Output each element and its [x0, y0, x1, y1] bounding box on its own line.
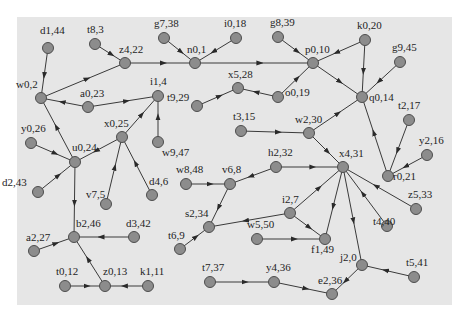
node-circle [83, 102, 94, 113]
graph-node: w9,47 [153, 137, 190, 159]
node-circle [338, 162, 349, 173]
node-circle [422, 150, 433, 161]
node-label: d3,42 [126, 217, 151, 229]
node-label: t6,9 [168, 229, 185, 241]
graph-node: n0,1 [187, 43, 206, 69]
node-label: g7,38 [154, 17, 179, 29]
graph-node: z4,22 [119, 43, 143, 69]
node-label: w2,30 [295, 113, 323, 125]
graph-node: g7,38 [154, 17, 179, 44]
graph-node: t7,37 [202, 261, 225, 288]
graph-node: h2,32 [268, 146, 293, 173]
node-circle [409, 272, 420, 283]
graph-node: w5,50 [247, 218, 275, 245]
node-label: t7,37 [202, 261, 225, 273]
node-label: x4,31 [339, 147, 364, 159]
node-label: k0,20 [357, 19, 382, 31]
node-label: h2,32 [268, 146, 293, 158]
graph-node: y2,16 [419, 134, 444, 161]
node-label: y0,26 [21, 122, 46, 134]
node-circle [304, 128, 315, 139]
graph-node: a2,27 [26, 231, 51, 257]
node-label: g8,39 [270, 16, 295, 28]
node-circle [269, 277, 280, 288]
node-circle [26, 138, 37, 149]
node-label: j2,0 [339, 251, 357, 263]
node-label: b2,46 [76, 217, 101, 229]
node-circle [175, 244, 186, 255]
graph-node: u0,24 [70, 141, 98, 168]
node-label: u0,24 [72, 141, 97, 153]
node-label: v7,5 [86, 188, 106, 200]
node-label: e2,36 [318, 274, 343, 286]
graph-node: i2,7 [282, 193, 299, 219]
node-label: z4,22 [119, 43, 143, 55]
graph-node: g8,39 [270, 16, 295, 43]
node-circle [395, 57, 406, 68]
node-label: o0,19 [285, 86, 310, 98]
node-circle [252, 234, 263, 245]
graph-node: r0,21 [383, 170, 416, 182]
graph-node: x0,25 [104, 117, 129, 143]
graph-node: t8,3 [87, 23, 104, 50]
graph-node: p0,10 [305, 43, 330, 69]
node-label: d2,43 [2, 176, 27, 188]
node-circle [236, 126, 247, 137]
node-label: x0,25 [104, 117, 129, 129]
node-label: d4,6 [149, 175, 169, 187]
node-circle [147, 190, 158, 201]
node-circle [273, 32, 284, 43]
node-circle [190, 58, 201, 69]
node-label: y2,16 [419, 134, 444, 146]
node-circle [33, 187, 44, 198]
graph-node: z0,13 [100, 265, 128, 292]
node-label: d1,44 [40, 24, 65, 36]
node-circle [383, 171, 394, 182]
node-circle [273, 92, 284, 103]
node-circle [29, 246, 40, 257]
node-label: f1,49 [311, 243, 334, 255]
graph-node: t5,41 [406, 256, 428, 283]
graph-node: v6,8 [222, 163, 242, 190]
node-label: a2,27 [26, 231, 51, 243]
node-circle [143, 281, 154, 292]
node-circle [117, 132, 128, 143]
node-label: i2,7 [282, 193, 299, 205]
node-label: t3,15 [233, 110, 256, 122]
graph-node: t0,12 [56, 265, 78, 292]
graph-node: t2,17 [398, 99, 421, 126]
node-circle [233, 83, 244, 94]
node-circle [120, 58, 131, 69]
node-label: w8,48 [176, 163, 204, 175]
node-circle [36, 93, 47, 104]
graph-node: o0,19 [273, 86, 311, 103]
graph-node: i1,4 [150, 75, 167, 102]
graph-node: g9,45 [392, 41, 417, 68]
graph-node: d3,42 [126, 217, 151, 243]
graph-node: d2,43 [2, 176, 44, 198]
graph-node: w8,48 [176, 163, 204, 190]
node-label: w0,2 [16, 78, 38, 90]
directed-graph: d1,44t8,3z4,22g7,38i0,18n0,1g8,39p0,10k0… [0, 0, 464, 318]
graph-node: x5,28 [228, 68, 253, 94]
node-circle [69, 232, 80, 243]
node-circle [327, 289, 338, 300]
node-circle [231, 33, 242, 44]
node-label: z0,13 [103, 265, 128, 277]
node-label: i1,4 [150, 75, 167, 87]
node-label: r0,21 [393, 170, 416, 182]
graph-node: y0,26 [21, 122, 46, 149]
graph-node: f1,49 [311, 234, 334, 256]
node-label: q0,14 [369, 91, 394, 103]
node-label: v6,8 [222, 163, 242, 175]
node-circle [181, 179, 192, 190]
node-circle [271, 162, 282, 173]
node-circle [129, 232, 140, 243]
graph-node: s2,34 [185, 207, 215, 233]
node-circle [205, 277, 216, 288]
graph-node: k0,20 [357, 19, 382, 46]
graph-node: i0,18 [224, 17, 247, 44]
node-circle [159, 33, 170, 44]
node-layer: d1,44t8,3z4,22g7,38i0,18n0,1g8,39p0,10k0… [2, 16, 444, 300]
graph-node: t4,40 [373, 215, 396, 232]
